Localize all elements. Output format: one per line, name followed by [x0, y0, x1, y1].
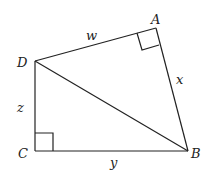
side-label-y: y: [109, 155, 118, 170]
diagonal-DB: [35, 61, 188, 151]
vertex-label-C: C: [18, 146, 28, 161]
vertex-label-D: D: [16, 55, 28, 70]
vertex-label-B: B: [190, 146, 201, 161]
vertex-label-A: A: [150, 12, 160, 27]
geometry-diagram: A B C D w x y z: [0, 0, 206, 175]
side-label-z: z: [16, 100, 24, 115]
side-label-x: x: [176, 72, 184, 87]
right-angle-mark-A: [137, 33, 159, 50]
side-label-w: w: [86, 28, 97, 43]
right-angle-mark-C: [35, 133, 53, 151]
side-AB: [156, 28, 188, 151]
